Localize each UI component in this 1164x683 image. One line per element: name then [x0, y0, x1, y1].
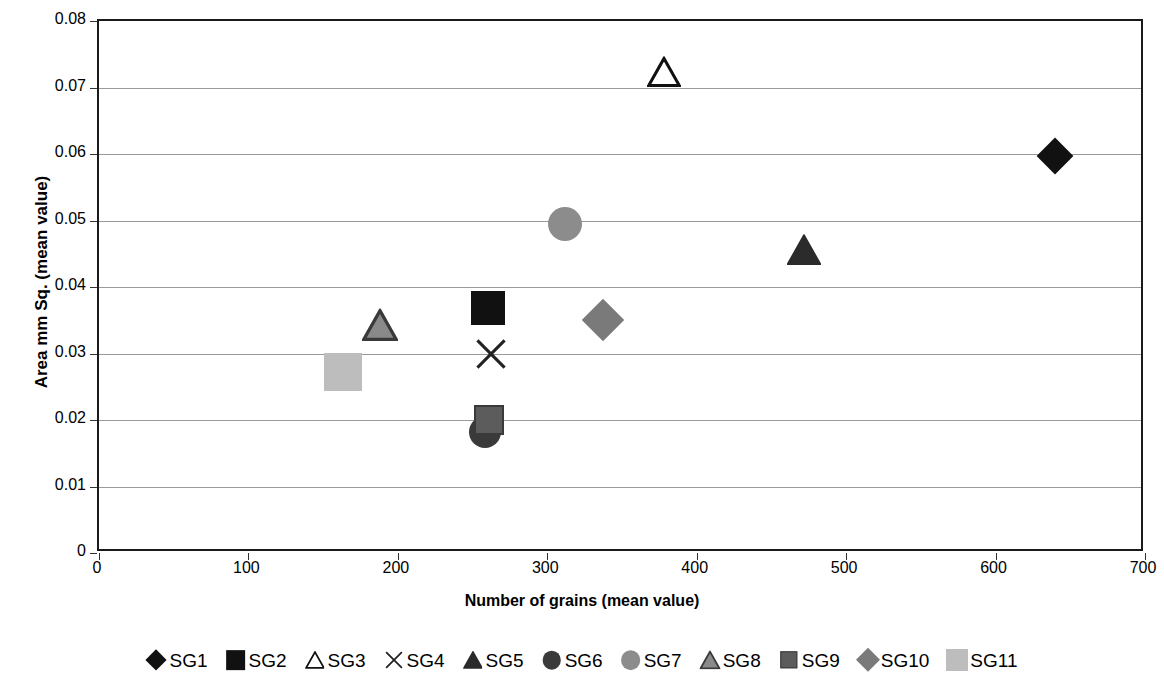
legend-label: SG5: [486, 651, 524, 670]
legend-marker-triangle-icon: [700, 650, 720, 670]
data-point-sg4: [474, 337, 508, 371]
data-point-sg1: [1037, 138, 1074, 175]
legend-label: SG4: [407, 651, 445, 670]
gridline: [99, 88, 1141, 89]
legend-item-sg7[interactable]: SG7: [621, 650, 682, 670]
legend-item-sg6[interactable]: SG6: [542, 650, 603, 670]
gridline: [99, 354, 1141, 355]
data-point-sg1: [146, 649, 167, 670]
chart-legend: SG1SG2SG3SG4SG5SG6SG7SG8SG9SG10SG11: [0, 650, 1164, 670]
gridline: [99, 487, 1141, 488]
legend-label: SG3: [328, 651, 366, 670]
x-axis-title: Number of grains (mean value): [0, 592, 1164, 610]
data-point-sg11: [946, 649, 968, 671]
data-point-sg9: [474, 405, 504, 435]
legend-label: SG7: [644, 651, 682, 670]
legend-label: SG6: [565, 651, 603, 670]
legend-marker-square-icon: [226, 650, 246, 670]
data-point-sg9: [780, 651, 797, 668]
gridline: [99, 420, 1141, 421]
x-axis-tick-label: 400: [655, 560, 735, 576]
legend-marker-square-icon: [779, 650, 799, 670]
y-axis-tick-label: 0.01: [14, 477, 86, 493]
legend-marker-circle-icon: [621, 650, 641, 670]
y-axis-tick-mark: [90, 154, 97, 155]
y-axis-tick-label: 0.04: [14, 277, 86, 293]
data-point-sg2: [471, 291, 505, 325]
legend-label: SG1: [169, 651, 207, 670]
legend-marker-diamond-icon: [146, 650, 166, 670]
legend-marker-square-icon: [947, 650, 967, 670]
data-point-sg3: [647, 56, 681, 87]
legend-item-sg9[interactable]: SG9: [779, 650, 840, 670]
y-axis-tick-mark: [90, 21, 97, 22]
data-point-sg8: [699, 650, 720, 669]
y-axis-tick-label: 0.08: [14, 11, 86, 27]
y-axis-tick-label: 0: [14, 543, 86, 559]
legend-marker-diamond-icon: [858, 650, 878, 670]
legend-label: SG9: [802, 651, 840, 670]
gridline: [99, 221, 1141, 222]
legend-label: SG10: [881, 651, 930, 670]
plot-area: [97, 19, 1143, 551]
legend-marker-x-icon: [384, 650, 404, 670]
x-axis-tick-label: 300: [505, 560, 585, 576]
data-point-sg5: [463, 651, 483, 669]
data-point-sg2: [226, 650, 246, 670]
y-axis-tick-labels: 00.010.020.030.040.050.060.070.08: [0, 0, 86, 683]
legend-item-sg8[interactable]: SG8: [700, 650, 761, 670]
legend-item-sg4[interactable]: SG4: [384, 650, 445, 670]
legend-label: SG11: [970, 651, 1017, 670]
x-axis-tick-label: 700: [1103, 560, 1164, 576]
legend-marker-triangle-icon: [305, 650, 325, 670]
gridline: [99, 287, 1141, 288]
y-axis-tick-mark: [90, 287, 97, 288]
y-axis-tick-mark: [90, 420, 97, 421]
x-axis-tick-label: 200: [356, 560, 436, 576]
y-axis-tick-label: 0.07: [14, 78, 86, 94]
y-axis-tick-mark: [90, 88, 97, 89]
data-point-sg5: [787, 235, 821, 266]
legend-item-sg1[interactable]: SG1: [146, 650, 207, 670]
x-axis-tick-label: 0: [57, 560, 137, 576]
data-point-sg8: [362, 308, 398, 341]
data-point-sg10: [581, 299, 623, 341]
data-point-sg7: [621, 650, 641, 670]
x-axis-tick-label: 100: [206, 560, 286, 576]
y-axis-tick-label: 0.02: [14, 410, 86, 426]
x-axis-tick-label: 500: [804, 560, 884, 576]
y-axis-tick-label: 0.06: [14, 144, 86, 160]
legend-item-sg5[interactable]: SG5: [463, 650, 524, 670]
data-point-sg10: [855, 648, 880, 673]
y-axis-tick-mark: [90, 221, 97, 222]
legend-marker-circle-icon: [542, 650, 562, 670]
scatter-chart: Area mm Sq. (mean value) 00.010.020.030.…: [0, 0, 1164, 683]
y-axis-tick-label: 0.03: [14, 344, 86, 360]
legend-marker-triangle-icon: [463, 650, 483, 670]
data-point-sg7: [548, 207, 582, 241]
x-axis-tick-label: 600: [954, 560, 1034, 576]
data-point-sg3: [305, 651, 325, 669]
y-axis-tick-mark: [90, 487, 97, 488]
gridline: [99, 154, 1141, 155]
y-axis-tick-label: 0.05: [14, 211, 86, 227]
legend-label: SG2: [249, 651, 287, 670]
legend-item-sg11[interactable]: SG11: [947, 650, 1017, 670]
legend-item-sg3[interactable]: SG3: [305, 650, 366, 670]
legend-item-sg10[interactable]: SG10: [858, 650, 930, 670]
legend-item-sg2[interactable]: SG2: [226, 650, 287, 670]
data-point-sg4: [384, 650, 404, 670]
legend-label: SG8: [723, 651, 761, 670]
y-axis-tick-mark: [90, 354, 97, 355]
data-point-sg6: [542, 651, 561, 670]
y-axis-tick-mark: [90, 553, 97, 554]
data-point-sg11: [324, 353, 362, 391]
